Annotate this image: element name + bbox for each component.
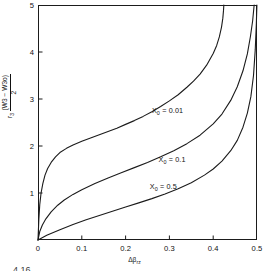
y-axis-title-wrapper: r3 (W3 − W3o) 2 (2, 32, 18, 160)
x-axis-title: Δβrz (0, 256, 269, 265)
y-axis-title: r3 (W3 − W3o) 2 (2, 74, 17, 118)
y-axis-title-prefix-subscript: 3 (8, 113, 14, 116)
axis-tick-marks (0, 0, 269, 271)
curve-label-2: X0 = 0.5 (150, 182, 177, 192)
curve-label-value-0: = 0.01 (160, 106, 183, 115)
y-axis-title-prefix-base: r (6, 116, 13, 118)
figure-container: 00.10.20.30.40.5 12345 Δβrz r3 (W3 − W3o… (0, 0, 269, 271)
figure-caption-fragment: 4.16 (13, 265, 31, 271)
y-axis-title-denominator: 2 (10, 90, 17, 96)
y-axis-title-fraction: (W3 − W3o) 2 (2, 74, 17, 111)
y-axis-title-numerator: (W3 − W3o) (2, 74, 9, 111)
curve-label-0: X0 = 0.01 (152, 106, 183, 116)
x-axis-title-subscript: rz (136, 259, 140, 265)
y-axis-title-prefix: r3 (6, 113, 15, 118)
curve-label-value-1: = 0.1 (167, 155, 186, 164)
curve-label-value-2: = 0.5 (158, 182, 177, 191)
curve-label-1: X0 = 0.1 (158, 155, 185, 165)
